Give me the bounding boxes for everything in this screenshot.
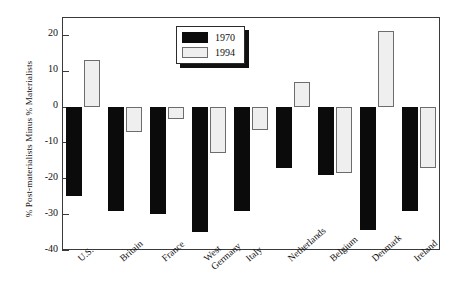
bar-1994-west-germany — [210, 107, 227, 154]
bar-1970-ireland — [402, 107, 419, 211]
bar-1994-belgium — [336, 107, 353, 173]
bar-group — [62, 17, 104, 250]
bar-1994-ireland — [420, 107, 437, 168]
y-tick-label: -20 — [16, 171, 58, 182]
bar-chart: % Post-materialists Minus % Materialists… — [0, 0, 459, 306]
y-tick-label: -30 — [16, 207, 58, 218]
legend-item-1994: 1994 — [182, 46, 235, 59]
legend-item-1970: 1970 — [182, 31, 235, 44]
bar-group — [314, 17, 356, 250]
bar-1994-u-s — [84, 60, 101, 107]
y-tick-mark — [62, 250, 69, 251]
y-tick-label: -10 — [16, 135, 58, 146]
y-tick-label: 10 — [16, 63, 58, 74]
bar-1970-france — [150, 107, 167, 215]
black-swatch-icon — [182, 32, 208, 43]
bar-group — [272, 17, 314, 250]
bar-group — [356, 17, 398, 250]
bar-1970-britain — [108, 107, 125, 211]
bar-1970-belgium — [318, 107, 335, 175]
chart-legend: 1970 1994 — [176, 26, 245, 64]
bar-1970-u-s — [66, 107, 83, 197]
legend-label-1970: 1970 — [215, 32, 235, 43]
bar-1994-france — [168, 107, 185, 120]
y-tick-label: 0 — [16, 99, 58, 110]
y-tick-label: -40 — [16, 243, 58, 254]
y-tick-label: 20 — [16, 27, 58, 38]
bar-1970-netherlands — [276, 107, 293, 168]
light-swatch-icon — [182, 47, 208, 58]
bar-1970-west-germany — [192, 107, 209, 232]
bars-layer — [62, 17, 440, 250]
bar-group — [398, 17, 440, 250]
bar-1970-italy — [234, 107, 251, 211]
bar-1994-denmark — [378, 31, 395, 106]
legend-label-1994: 1994 — [215, 47, 235, 58]
bar-1970-denmark — [360, 107, 377, 231]
bar-1994-netherlands — [294, 82, 311, 107]
bar-1994-britain — [126, 107, 143, 132]
bar-group — [104, 17, 146, 250]
bar-1994-italy — [252, 107, 269, 130]
